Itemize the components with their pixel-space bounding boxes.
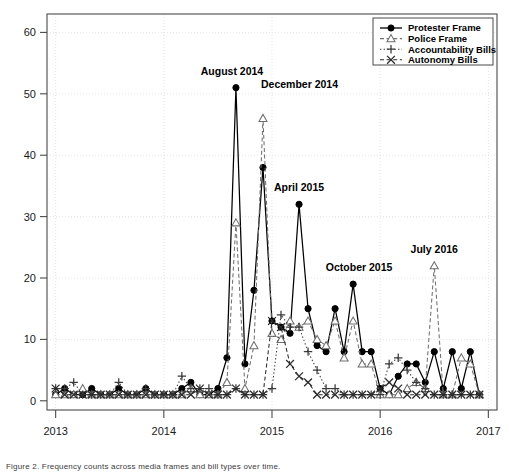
legend-marker-sample bbox=[388, 25, 394, 31]
series-marker-autonomy-bills bbox=[295, 372, 303, 380]
series-marker-protester-frame bbox=[350, 281, 356, 287]
y-axis-tick-label: 50 bbox=[24, 88, 36, 100]
series-marker-accountability-bills bbox=[69, 378, 77, 386]
y-axis-tick-label: 30 bbox=[24, 211, 36, 223]
series-marker-protester-frame bbox=[467, 349, 473, 355]
series-marker-accountability-bills bbox=[178, 372, 186, 380]
series-line-police-frame bbox=[56, 118, 480, 394]
series-marker-police-frame bbox=[403, 385, 411, 392]
series-marker-accountability-bills bbox=[313, 366, 321, 374]
figure-container: 010203040506020132014201520162017August … bbox=[0, 0, 509, 476]
series-marker-accountability-bills bbox=[304, 347, 312, 355]
series-marker-protester-frame bbox=[314, 342, 320, 348]
series-marker-police-frame bbox=[223, 378, 231, 385]
annotation-label: August 2014 bbox=[201, 65, 264, 77]
series-marker-protester-frame bbox=[242, 361, 248, 367]
legend-label: Police Frame bbox=[408, 33, 467, 44]
figure-caption: Figure 2. Frequency counts across media … bbox=[6, 462, 501, 471]
series-marker-police-frame bbox=[250, 342, 258, 349]
y-axis-tick-label: 10 bbox=[24, 333, 36, 345]
y-axis-tick-label: 60 bbox=[24, 26, 36, 38]
x-axis-tick-label: 2014 bbox=[152, 425, 176, 437]
series-marker-accountability-bills bbox=[394, 354, 402, 362]
annotation-label: October 2015 bbox=[326, 261, 393, 273]
series-marker-autonomy-bills bbox=[304, 378, 312, 386]
series-marker-protester-frame bbox=[368, 349, 374, 355]
series-marker-protester-frame bbox=[431, 349, 437, 355]
x-axis-tick-label: 2015 bbox=[260, 425, 284, 437]
series-marker-protester-frame bbox=[233, 85, 239, 91]
series-marker-autonomy-bills bbox=[385, 378, 393, 386]
series-marker-police-frame bbox=[322, 342, 330, 349]
series-marker-police-frame bbox=[457, 354, 465, 361]
series-marker-autonomy-bills bbox=[286, 360, 294, 368]
series-line-protester-frame bbox=[56, 88, 480, 395]
series-marker-protester-frame bbox=[323, 349, 329, 355]
annotation-label: December 2014 bbox=[261, 78, 338, 90]
series-marker-protester-frame bbox=[449, 349, 455, 355]
series-marker-accountability-bills bbox=[277, 311, 285, 319]
legend-label: Protester Frame bbox=[408, 22, 481, 33]
chart-canvas: 010203040506020132014201520162017August … bbox=[0, 0, 509, 476]
x-axis-tick-label: 2016 bbox=[368, 425, 392, 437]
y-axis-tick-label: 40 bbox=[24, 149, 36, 161]
series-marker-protester-frame bbox=[395, 373, 401, 379]
series-marker-police-frame bbox=[268, 329, 276, 336]
series-marker-protester-frame bbox=[296, 201, 302, 207]
x-axis-tick-label: 2017 bbox=[476, 425, 500, 437]
series-marker-protester-frame bbox=[305, 306, 311, 312]
series-marker-police-frame bbox=[430, 262, 438, 269]
series-marker-police-frame bbox=[349, 317, 357, 324]
annotation-label: July 2016 bbox=[411, 243, 458, 255]
legend-label: Autonomy Bills bbox=[408, 54, 478, 65]
series-marker-police-frame bbox=[340, 354, 348, 361]
legend-label: Accountability Bills bbox=[408, 44, 496, 55]
series-marker-protester-frame bbox=[413, 361, 419, 367]
series-marker-accountability-bills bbox=[115, 378, 123, 386]
x-axis-tick-label: 2013 bbox=[43, 425, 67, 437]
y-axis-tick-label: 0 bbox=[30, 395, 36, 407]
series-marker-accountability-bills bbox=[385, 360, 393, 368]
annotation-label: April 2015 bbox=[274, 181, 324, 193]
series-marker-police-frame bbox=[259, 114, 267, 121]
series-marker-police-frame bbox=[232, 219, 240, 226]
series-marker-protester-frame bbox=[332, 306, 338, 312]
y-axis-tick-label: 20 bbox=[24, 272, 36, 284]
series-marker-protester-frame bbox=[224, 355, 230, 361]
series-marker-accountability-bills bbox=[268, 384, 276, 392]
